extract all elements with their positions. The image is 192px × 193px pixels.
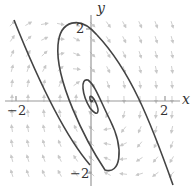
x-axis-label: x: [182, 91, 190, 107]
direction-arrow: [43, 126, 44, 132]
direction-arrow: [41, 23, 47, 24]
direction-arrow: [27, 171, 29, 177]
direction-arrow: [12, 81, 13, 87]
left-trajectory: [14, 20, 90, 165]
direction-arrow: [11, 66, 13, 72]
direction-arrow: [139, 126, 141, 132]
direction-arrow: [156, 81, 157, 87]
direction-arrow: [123, 111, 124, 117]
direction-arrow: [171, 36, 173, 42]
direction-arrow: [154, 157, 158, 162]
direction-arrow: [123, 51, 125, 57]
direction-arrow: [121, 143, 126, 146]
x-neg-tick-label: −2: [7, 103, 26, 118]
direction-arrow: [121, 174, 127, 175]
direction-arrow: [105, 143, 111, 144]
y-pos-tick-label: 2: [76, 21, 84, 36]
direction-arrow: [139, 51, 141, 57]
direction-arrow: [123, 36, 126, 41]
direction-arrow: [43, 66, 46, 71]
phase-portrait: y x −2 2 2 −2: [0, 0, 192, 193]
direction-arrow: [107, 81, 109, 87]
direction-arrow: [27, 156, 29, 162]
direction-arrow: [43, 141, 45, 147]
direction-arrow: [57, 23, 63, 24]
direction-arrow: [59, 111, 60, 117]
direction-arrow: [73, 69, 79, 70]
direction-arrow: [28, 81, 29, 87]
direction-arrow: [10, 37, 13, 42]
direction-arrow: [121, 159, 127, 160]
direction-arrow: [59, 141, 61, 147]
direction-arrow: [44, 111, 45, 117]
spiral-trajectory: [58, 23, 119, 171]
direction-arrow: [172, 111, 173, 117]
direction-arrow: [156, 111, 157, 117]
direction-arrow: [123, 21, 126, 26]
direction-arrow: [43, 171, 45, 176]
direction-arrow: [106, 51, 109, 56]
direction-arrow: [138, 142, 142, 147]
direction-arrow: [11, 141, 12, 147]
direction-arrow: [122, 127, 126, 132]
direction-arrow: [11, 171, 13, 177]
direction-arrow: [59, 171, 62, 176]
direction-arrow: [172, 66, 173, 72]
direction-arrow: [137, 173, 143, 175]
direction-arrow: [73, 53, 79, 55]
direction-arrow: [140, 81, 141, 87]
direction-arrow: [59, 156, 62, 161]
y-neg-tick-label: −2: [70, 166, 89, 181]
direction-arrow: [27, 66, 29, 72]
direction-arrow: [75, 126, 78, 131]
direction-arrow: [25, 22, 30, 25]
y-axis-label: y: [96, 0, 106, 16]
direction-arrow: [42, 52, 46, 56]
direction-arrow: [27, 126, 28, 132]
direction-arrow: [105, 158, 111, 160]
direction-arrow: [123, 81, 124, 87]
direction-arrow: [170, 172, 174, 177]
direction-arrow: [105, 128, 111, 129]
direction-arrow: [170, 156, 173, 161]
direction-arrow: [59, 81, 61, 87]
direction-arrow: [155, 66, 156, 72]
direction-arrow: [105, 173, 110, 176]
direction-arrow: [172, 81, 173, 87]
direction-arrow: [137, 157, 142, 160]
direction-arrow: [28, 111, 29, 117]
direction-arrow: [11, 51, 13, 56]
direction-arrow: [26, 37, 30, 41]
direction-arrow: [155, 36, 157, 42]
direction-arrow: [154, 172, 159, 176]
direction-arrow: [155, 51, 157, 57]
direction-arrow: [43, 81, 44, 87]
direction-arrow: [171, 51, 172, 57]
x-pos-tick-label: 2: [160, 103, 168, 118]
direction-arrow: [171, 141, 173, 147]
direction-arrow: [140, 111, 141, 117]
direction-field: [10, 21, 174, 177]
direction-arrow: [11, 156, 13, 162]
direction-arrow: [155, 21, 157, 27]
direction-arrow: [106, 22, 109, 27]
direction-arrow: [12, 126, 13, 132]
direction-arrow: [73, 38, 78, 41]
direction-arrow: [106, 36, 109, 41]
direction-arrow: [107, 66, 110, 71]
direction-arrow: [27, 141, 29, 147]
direction-arrow: [59, 126, 61, 132]
direction-arrow: [10, 22, 14, 26]
direction-arrow: [139, 66, 140, 72]
direction-arrow: [41, 38, 46, 41]
direction-arrow: [43, 156, 45, 162]
direction-arrow: [139, 21, 141, 26]
direction-arrow: [74, 157, 77, 162]
direction-arrow: [171, 126, 172, 132]
direction-arrow: [139, 36, 141, 42]
direction-arrow: [74, 82, 79, 85]
direction-arrow: [171, 21, 173, 27]
direction-arrow: [155, 126, 157, 132]
